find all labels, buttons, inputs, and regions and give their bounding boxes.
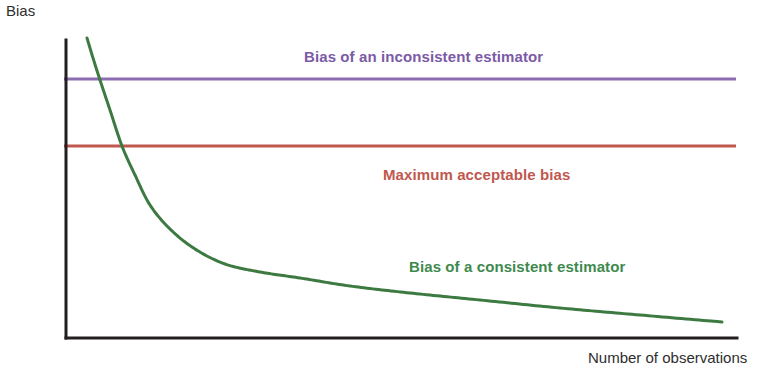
- x-axis-title: Number of observations: [588, 350, 747, 367]
- series-label-maximum-acceptable-bias: Maximum acceptable bias: [383, 166, 570, 183]
- series-label-consistent-estimator: Bias of a consistent estimator: [409, 258, 625, 275]
- series-label-inconsistent-estimator: Bias of an inconsistent estimator: [304, 48, 543, 65]
- bias-chart-figure: Bias Bias of an inconsistent estimator M…: [0, 0, 780, 371]
